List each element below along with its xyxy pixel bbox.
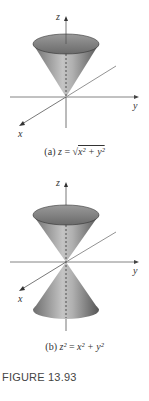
cone-plot-a [0, 0, 149, 165]
x-axis-label: x [18, 128, 22, 139]
cone-plot-b [0, 165, 149, 365]
figure-title: FIGURE 13.93 [2, 371, 77, 383]
panel-label-a: (a) [44, 146, 55, 157]
z-axis-label: z [56, 177, 60, 188]
z-axis-label: z [56, 11, 60, 22]
caption-b: (b) z² = x² + y² [0, 341, 149, 352]
equation-lhs-b: z² [60, 341, 67, 352]
equation-rhs-b: x² + y² [77, 341, 104, 352]
figure-panel-a: z y x (a) z = √x² + y² [0, 0, 149, 165]
figure-panel-b: z y x (b) z² = x² + y² [0, 165, 149, 365]
equation-eq-b: = [69, 341, 75, 352]
equation-eq-a: = [64, 146, 70, 157]
panel-label-b: (b) [45, 341, 57, 352]
equation-lhs-a: z [58, 146, 62, 157]
y-axis-label: y [133, 100, 137, 111]
equation-rhs-a: x² + y² [78, 146, 105, 157]
y-axis-label: y [133, 265, 137, 276]
caption-a: (a) z = √x² + y² [0, 146, 149, 157]
x-axis-label: x [18, 293, 22, 304]
